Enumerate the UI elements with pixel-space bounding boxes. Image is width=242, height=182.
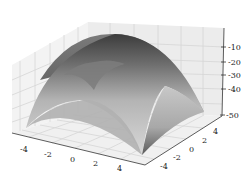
y-tick-label: -2 [173,153,181,162]
x-tick-label: 2 [93,159,98,168]
surface-plot-3d: -10 -20 -30 -40 -50 -4 -2 0 2 4 -4 -2 0 … [0,0,242,182]
x-tick-label: -2 [44,150,52,159]
z-tick-label: -30 [228,71,241,80]
z-tick-label: -40 [228,85,241,94]
z-tick-label: -20 [228,58,241,67]
y-tick-label: 4 [213,127,218,136]
z-tick-label: -50 [226,111,239,120]
x-tick-label: 4 [117,164,122,173]
y-tick-label: 0 [189,145,194,154]
z-tick-label: -10 [228,43,241,52]
y-tick-label: -4 [160,162,168,171]
x-tick-label: -4 [20,145,28,154]
x-tick-label: 0 [70,155,75,164]
y-tick-label: 2 [202,136,207,145]
